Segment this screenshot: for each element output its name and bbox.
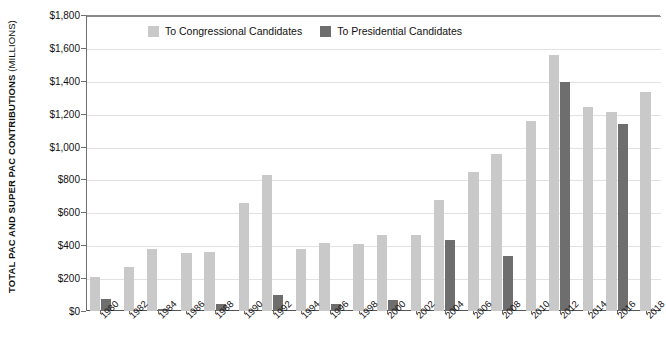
bar-group (115, 15, 144, 311)
bar-group (143, 15, 172, 311)
legend-label: To Congressional Candidates (165, 25, 302, 37)
bar-congressional (296, 249, 307, 311)
bar-congressional (411, 235, 422, 311)
bar-congressional (353, 244, 364, 311)
bar-congressional (606, 112, 617, 311)
bar-congressional (90, 277, 101, 311)
bar-group (172, 15, 201, 311)
y-axis-tick-label: $1,000 (22, 141, 80, 152)
bar-group (316, 15, 345, 311)
x-axis-tick-labels: 1980198219841986198819901992199419961998… (86, 311, 660, 338)
bar-group (517, 15, 546, 311)
bar-congressional (468, 172, 479, 311)
bar-group (201, 15, 230, 311)
bar-group (86, 15, 115, 311)
bar-group (402, 15, 431, 311)
bar-congressional (434, 200, 445, 311)
y-axis-tick-label: $200 (22, 273, 80, 284)
bar-group (258, 15, 287, 311)
legend-item-presidential[interactable]: To Presidential Candidates (320, 25, 462, 37)
y-axis-title-units: (MILLIONS) (6, 20, 17, 72)
bar-group (373, 15, 402, 311)
y-axis-tick-label: $0 (22, 306, 80, 317)
legend-item-congressional[interactable]: To Congressional Candidates (148, 25, 302, 37)
bar-group (230, 15, 259, 311)
legend-swatch-congressional (148, 26, 159, 37)
bar-congressional (640, 92, 651, 311)
bar-group (344, 15, 373, 311)
bar-congressional (526, 121, 537, 311)
y-axis-tick-label: $1,600 (22, 42, 80, 53)
bar-congressional (147, 249, 158, 311)
bar-presidential (618, 124, 628, 311)
bar-congressional (319, 243, 330, 311)
y-axis-tick-label: $800 (22, 174, 80, 185)
legend-label: To Presidential Candidates (337, 25, 462, 37)
bar-group (545, 15, 574, 311)
bar-group (459, 15, 488, 311)
bar-group (631, 15, 660, 311)
bar-group (287, 15, 316, 311)
bar-congressional (262, 175, 273, 311)
chart-legend: To Congressional CandidatesTo Presidenti… (148, 25, 462, 37)
y-axis-tick-label: $400 (22, 240, 80, 251)
y-axis-title-text: TOTAL PAC AND SUPER PAC CONTRIBUTIONS (6, 74, 17, 292)
bar-congressional (377, 235, 388, 311)
y-axis-tick-labels: $0$200$400$600$800$1,000$1,200$1,400$1,6… (20, 15, 80, 311)
bar-congressional (549, 55, 560, 311)
bar-chart: TOTAL PAC AND SUPER PAC CONTRIBUTIONS (M… (0, 0, 666, 338)
bar-group (430, 15, 459, 311)
y-axis-title: TOTAL PAC AND SUPER PAC CONTRIBUTIONS (M… (0, 0, 22, 312)
bar-group (603, 15, 632, 311)
y-axis-tick-label: $1,400 (22, 75, 80, 86)
bars-layer (86, 15, 660, 311)
bar-congressional (491, 154, 502, 311)
legend-swatch-presidential (320, 26, 331, 37)
bar-group (488, 15, 517, 311)
bar-congressional (239, 203, 250, 311)
y-axis-tick-label: $1,200 (22, 108, 80, 119)
bar-congressional (204, 252, 215, 311)
y-axis-tick-label: $1,800 (22, 10, 80, 21)
bar-congressional (124, 267, 135, 311)
bar-presidential (560, 82, 570, 311)
bar-congressional (583, 107, 594, 311)
y-axis-tick-label: $600 (22, 207, 80, 218)
bar-congressional (181, 253, 192, 311)
bar-group (574, 15, 603, 311)
